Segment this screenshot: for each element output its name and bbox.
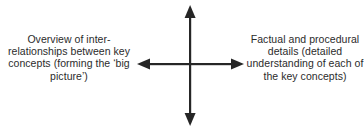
right-axis-label: Factual and procedural details (detailed…: [246, 33, 364, 82]
cross-arrow-graphic: [130, 0, 250, 132]
diagram-canvas: Overview of inter-relationships between …: [0, 0, 364, 132]
vertical-double-arrow-icon: [185, 5, 196, 126]
left-axis-label: Overview of inter-relationships between …: [2, 33, 136, 82]
